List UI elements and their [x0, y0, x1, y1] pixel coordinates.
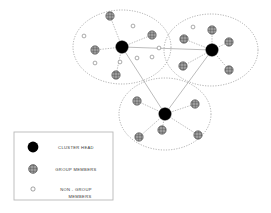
legend-cluster-head-swatch [28, 142, 39, 153]
legend-label-0: CLUSTER HEAD [58, 145, 94, 150]
legend: CLUSTER HEADGROUP MEMBERSNON - GROUPMEMB… [14, 132, 113, 200]
group-member-node [191, 100, 199, 108]
group-member-node [208, 26, 216, 34]
group-member-node [179, 62, 187, 70]
group-member-circle [106, 12, 114, 20]
group-member-node [225, 66, 233, 74]
group-member-circle [158, 126, 166, 134]
group-member-node [133, 97, 141, 105]
group-member-circle [194, 131, 202, 139]
inter-cluster-link [122, 47, 212, 50]
cluster-network-diagram: CLUSTER HEADGROUP MEMBERSNON - GROUPMEMB… [0, 0, 271, 213]
group-member-node [194, 131, 202, 139]
cluster-head-node-right-cluster [206, 44, 218, 56]
legend-label-2-line2: MEMBERS [68, 194, 91, 199]
non-group-member-node [118, 60, 122, 64]
group-member-circle [148, 31, 156, 39]
legend-label-2: NON - GROUP [60, 187, 92, 192]
legend-label-1: GROUP MEMBERS [55, 167, 96, 172]
non-group-member-node [93, 61, 97, 65]
group-member-node [148, 31, 156, 39]
non-group-member-node [82, 34, 86, 38]
inter-cluster-link [165, 50, 212, 114]
non-group-member-node [135, 56, 139, 60]
group-member-node [112, 71, 120, 79]
group-member-circle [91, 46, 99, 54]
group-member-node [225, 38, 233, 46]
group-member-circle [135, 133, 143, 141]
legend-group-member-swatch [29, 165, 38, 174]
non-group-member-node [157, 46, 161, 50]
group-member-node [91, 46, 99, 54]
non-group-member-node [131, 24, 135, 28]
cluster-head-node-bottom-cluster [159, 108, 171, 120]
group-member-circle [180, 35, 188, 43]
group-member-circle [208, 26, 216, 34]
diagram-canvas: CLUSTER HEADGROUP MEMBERSNON - GROUPMEMB… [0, 0, 271, 213]
group-member-circle [133, 97, 141, 105]
non-group-member-node [150, 55, 154, 59]
cluster-head-node-left-cluster [116, 41, 128, 53]
group-member-circle [225, 66, 233, 74]
non-group-member-node [191, 25, 195, 29]
group-member-node [106, 12, 114, 20]
group-member-node [180, 35, 188, 43]
group-member-circle [179, 62, 187, 70]
group-member-node [135, 133, 143, 141]
group-member-circle [191, 100, 199, 108]
node-layer [82, 12, 233, 141]
group-member-circle [225, 38, 233, 46]
legend-non-group-member-swatch [31, 187, 35, 191]
group-member-circle [112, 71, 120, 79]
group-member-node [158, 126, 166, 134]
